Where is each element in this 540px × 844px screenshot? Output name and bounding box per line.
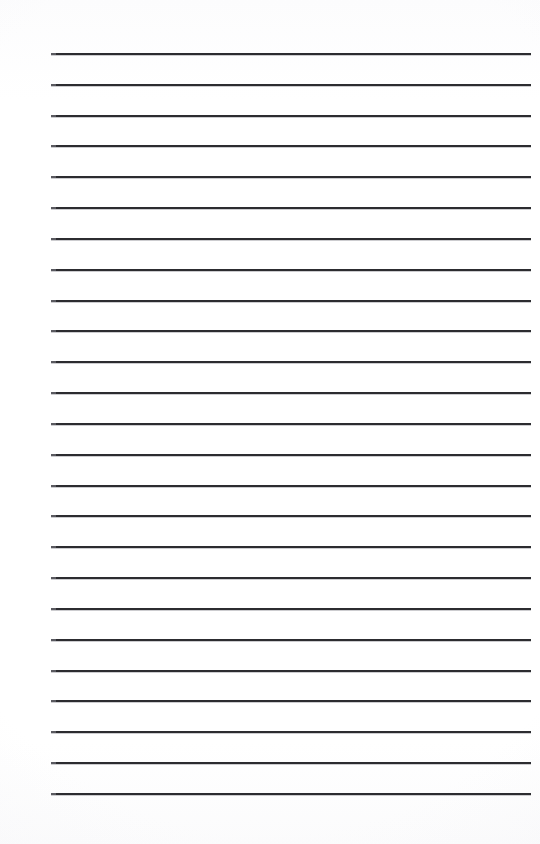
ruled-line bbox=[51, 793, 531, 795]
ruled-line bbox=[51, 454, 531, 456]
ruled-line bbox=[51, 546, 531, 548]
ruled-lines-group bbox=[0, 0, 540, 844]
ruled-line bbox=[51, 762, 531, 764]
ruled-line bbox=[51, 269, 531, 271]
ruled-line bbox=[51, 330, 531, 332]
ruled-line bbox=[51, 700, 531, 702]
ruled-line bbox=[51, 670, 531, 672]
ruled-line bbox=[51, 608, 531, 610]
ruled-line bbox=[51, 515, 531, 517]
ruled-line bbox=[51, 485, 531, 487]
lined-paper-page bbox=[0, 0, 540, 844]
ruled-line bbox=[51, 361, 531, 363]
ruled-line bbox=[51, 392, 531, 394]
ruled-line bbox=[51, 207, 531, 209]
ruled-line bbox=[51, 238, 531, 240]
ruled-line bbox=[51, 176, 531, 178]
ruled-line bbox=[51, 115, 531, 117]
ruled-line bbox=[51, 300, 531, 302]
ruled-line bbox=[51, 423, 531, 425]
ruled-line bbox=[51, 84, 531, 86]
ruled-line bbox=[51, 639, 531, 641]
ruled-line bbox=[51, 731, 531, 733]
ruled-line bbox=[51, 577, 531, 579]
ruled-line bbox=[51, 145, 531, 147]
ruled-line bbox=[51, 53, 531, 55]
